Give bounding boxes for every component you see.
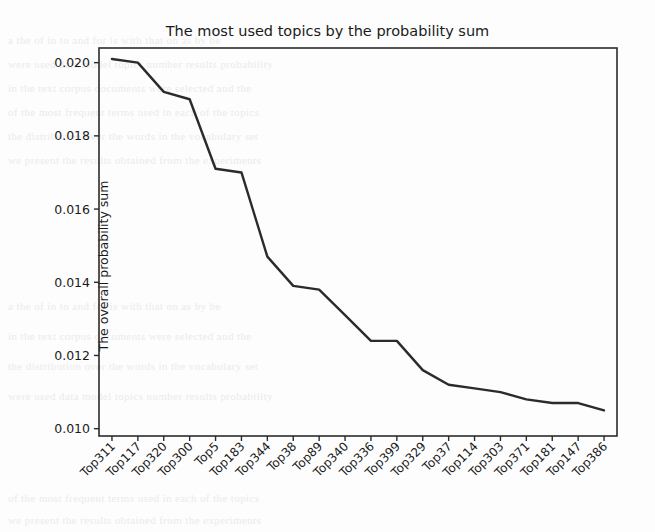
y-axis-ticks: 0.0100.0120.0140.0160.0180.020 [54, 55, 99, 436]
x-axis-ticks: Top311Top117Top320Top300Top5Top183Top344… [77, 436, 610, 480]
y-tick-label: 0.016 [54, 202, 90, 217]
y-tick-label: 0.012 [54, 348, 90, 363]
x-tick-label: Top38 [264, 439, 300, 475]
data-series-line [112, 59, 604, 410]
y-tick-label: 0.010 [54, 421, 90, 436]
y-tick-label: 0.020 [54, 55, 90, 70]
chart-figure: The most used topics by the probability … [0, 0, 655, 532]
y-tick-label: 0.018 [54, 128, 90, 143]
y-tick-label: 0.014 [54, 275, 90, 290]
axes-frame [99, 48, 617, 436]
plot-area: 0.0100.0120.0140.0160.0180.020 Top311Top… [0, 0, 655, 532]
